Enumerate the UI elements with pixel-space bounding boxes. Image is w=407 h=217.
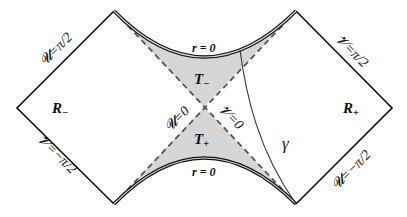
- penrose-diagram: R− R+ T− T+ r = 0 r = 0 𝓤=π/2 𝓥=π/2 𝓥=−π…: [0, 0, 407, 217]
- label-gamma: γ: [282, 134, 290, 153]
- label-r-minus: R−: [51, 100, 68, 118]
- label-boundary-top-right: 𝓥=π/2: [333, 32, 371, 70]
- region-t-minus-shade: [114, 11, 296, 107]
- label-singularity-bottom: r = 0: [192, 165, 216, 179]
- label-boundary-top-left: 𝓤=π/2: [37, 30, 75, 68]
- label-singularity-top: r = 0: [192, 41, 216, 55]
- label-r-plus: R+: [342, 100, 359, 118]
- label-boundary-bottom-left: 𝓥=−π/2: [35, 132, 80, 177]
- label-boundary-bottom-right: 𝓤=−π/2: [329, 147, 374, 192]
